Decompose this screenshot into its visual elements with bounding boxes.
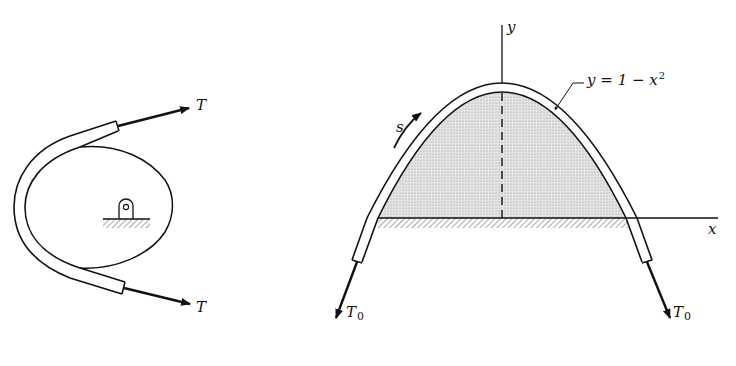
curve-equation-label: y = 1 − x2	[587, 73, 665, 88]
equation-rhs: 1 − x	[618, 71, 658, 89]
tension-label-bottom: T	[196, 300, 206, 315]
tension-label-top: T	[196, 98, 206, 113]
tension-label-left: T0	[346, 305, 364, 320]
cam-figure	[14, 108, 190, 304]
tension-right-symbol: T	[673, 303, 683, 321]
tension-arrow-top	[118, 108, 189, 126]
diagram-canvas	[0, 0, 736, 366]
tension-left-symbol: T	[346, 303, 356, 321]
tube-inner-wall	[25, 131, 125, 282]
equation-lhs: y	[587, 71, 595, 89]
tension-label-right: T0	[673, 305, 691, 320]
equation-equals: =	[600, 71, 613, 89]
ground-hatch	[378, 218, 628, 228]
arc-length-label: s	[396, 120, 404, 135]
x-axis-label: x	[708, 222, 716, 237]
equation-leader	[555, 83, 584, 110]
tension-arrow-bottom	[124, 288, 190, 304]
tension-right-subscript: 0	[684, 310, 691, 323]
tension-arrow-right	[647, 262, 670, 318]
y-axis-label: y	[507, 20, 515, 35]
tension-left-subscript: 0	[357, 310, 364, 323]
equation-exponent: 2	[659, 70, 665, 81]
pin-support-icon	[103, 199, 150, 228]
parabola-figure	[336, 25, 718, 318]
